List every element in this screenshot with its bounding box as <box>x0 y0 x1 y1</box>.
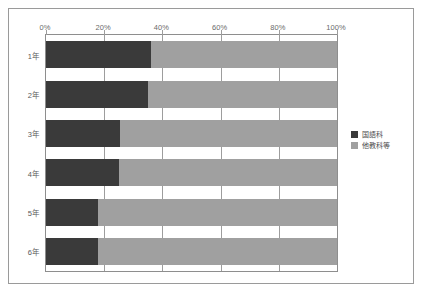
x-axis-tick-mark <box>46 30 47 35</box>
x-axis-tick-label: 80% <box>270 23 285 32</box>
chart-frame: 0%20%40%60%80%100% 1年2年3年4年5年6年 国語科他教科等 <box>8 8 414 284</box>
gridline <box>221 35 222 271</box>
legend-item-label: 他教科等 <box>362 142 390 149</box>
bar-row: 3年 <box>46 120 337 147</box>
bar-segment-primary[interactable] <box>46 238 98 265</box>
gridline <box>279 35 280 271</box>
x-axis-tick-label: 40% <box>154 23 169 32</box>
legend-swatch-icon <box>351 131 358 138</box>
x-axis-tick-label: 0% <box>39 23 50 32</box>
x-axis-tick-mark <box>279 30 280 35</box>
legend-item[interactable]: 国語科 <box>351 131 390 138</box>
bar-segment-secondary[interactable] <box>98 238 337 265</box>
stacked-bar-chart: 0%20%40%60%80%100% 1年2年3年4年5年6年 国語科他教科等 <box>9 9 415 285</box>
plot-area: 1年2年3年4年5年6年 <box>45 34 338 272</box>
y-axis-category-label: 1年 <box>28 49 39 60</box>
bar-segment-secondary[interactable] <box>98 199 337 226</box>
gridline <box>162 35 163 271</box>
bar-row: 5年 <box>46 199 337 226</box>
bar-segment-secondary[interactable] <box>151 41 337 68</box>
bar-segment-secondary[interactable] <box>119 159 337 186</box>
bar-segment-primary[interactable] <box>46 81 148 108</box>
legend-swatch-icon <box>351 142 358 149</box>
x-axis-tick-label: 60% <box>212 23 227 32</box>
y-axis-category-label: 4年 <box>28 167 39 178</box>
y-axis-category-label: 5年 <box>28 207 39 218</box>
x-axis-tick-mark <box>162 30 163 35</box>
bar-segment-primary[interactable] <box>46 41 151 68</box>
legend-item[interactable]: 他教科等 <box>351 142 390 149</box>
y-axis-category-label: 3年 <box>28 128 39 139</box>
x-axis-tick-label: 20% <box>96 23 111 32</box>
bar-segment-secondary[interactable] <box>148 81 337 108</box>
bar-segment-primary[interactable] <box>46 199 98 226</box>
bar-segment-primary[interactable] <box>46 120 120 147</box>
legend-item-label: 国語科 <box>362 131 383 138</box>
gridline <box>104 35 105 271</box>
bar-row: 4年 <box>46 159 337 186</box>
x-axis-tick-mark <box>337 30 338 35</box>
x-axis-tick-mark <box>221 30 222 35</box>
x-axis-tick-label: 100% <box>326 23 346 32</box>
bar-row: 2年 <box>46 81 337 108</box>
chart-legend: 国語科他教科等 <box>351 131 390 153</box>
y-axis-category-label: 2年 <box>28 89 39 100</box>
y-axis-category-label: 6年 <box>28 246 39 257</box>
bar-segment-primary[interactable] <box>46 159 119 186</box>
x-axis-tick-mark <box>104 30 105 35</box>
bar-row: 1年 <box>46 41 337 68</box>
bar-segment-secondary[interactable] <box>120 120 337 147</box>
bar-row: 6年 <box>46 238 337 265</box>
